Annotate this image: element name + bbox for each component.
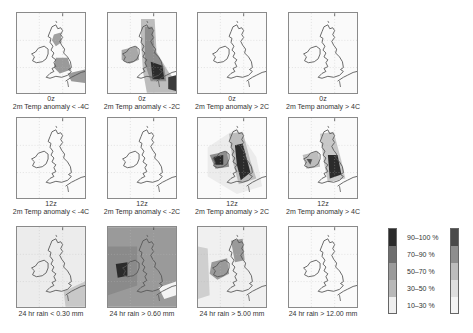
- map-panel-rain-lt030: [16, 226, 86, 308]
- legend-label: 10–30 %: [407, 302, 435, 309]
- legend-label: 70–90 %: [407, 251, 435, 258]
- map-panel-12z-tmax4: [288, 117, 358, 199]
- panel-caption-label: 24 hr rain > 12.00 mm: [268, 310, 378, 319]
- legend-swatch-10-30: [389, 297, 396, 313]
- map-panel-12z-tmin2: [107, 117, 177, 199]
- map-panel-0z-tmax2: [197, 12, 267, 94]
- map-panel-0z-tmin4: [16, 12, 86, 94]
- legend-swatch-90-100: [389, 229, 396, 246]
- legend-swatch-30-50: [389, 280, 396, 297]
- map-panel-12z-tmax2: [197, 117, 267, 199]
- map-panel-rain-gt500: [197, 226, 267, 308]
- panel-caption-label: 2m Temp anomaly > 4C: [268, 208, 378, 217]
- map-panel-rain-gt1200: [288, 226, 358, 308]
- legend-swatch-50-70: [389, 263, 396, 280]
- legend-colorbar-right: [450, 228, 459, 314]
- map-panel-0z-tmin2: [107, 12, 177, 94]
- panel-caption-label: 2m Temp anomaly > 4C: [268, 103, 378, 112]
- legend-label: 50–70 %: [407, 268, 435, 275]
- legend-label: 90–100 %: [407, 234, 439, 241]
- map-panel-rain-gt060: [107, 226, 177, 308]
- legend-colorbar-left: [388, 228, 397, 314]
- legend-swatch-70-90: [389, 246, 396, 263]
- legend-label: 30–50 %: [407, 285, 435, 292]
- map-panel-0z-tmax4: [288, 12, 358, 94]
- map-panel-12z-tmin4: [16, 117, 86, 199]
